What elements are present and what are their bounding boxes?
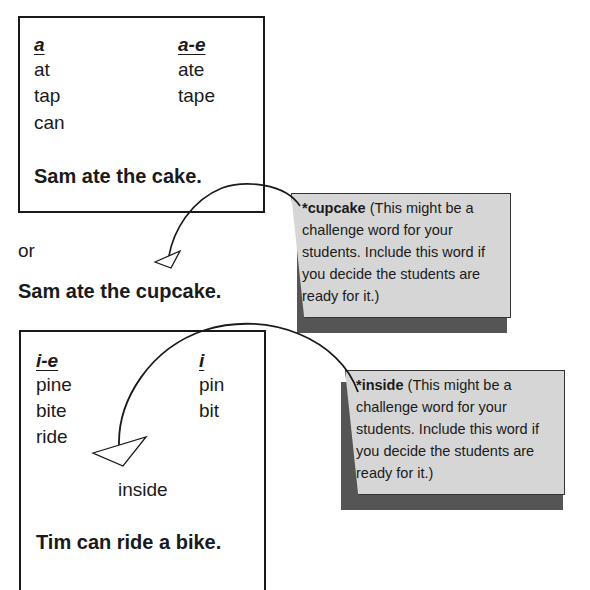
column-header-a-e: a-e [178,34,205,56]
column-header-i-e: i-e [36,350,58,372]
word-can: can [34,112,65,134]
sticky-note-cupcake: *cupcake (This might be a challenge word… [291,193,531,338]
or-label: or [18,240,35,262]
word-tap: tap [34,85,60,107]
word-ride: ride [36,426,68,448]
word-bit: bit [199,400,219,422]
word-at: at [34,59,50,81]
word-pin: pin [199,374,224,396]
word-pine: pine [36,374,72,396]
sentence-cupcake: Sam ate the cupcake. [18,280,221,302]
column-header-a: a [34,34,45,56]
column-header-i: i [199,350,204,372]
sticky-note-inside: *inside (This might be a challenge word … [345,370,585,515]
inserted-word-inside: inside [118,479,168,501]
note-word-inside: *inside [356,377,404,393]
sentence-bike: Tim can ride a bike. [36,531,221,553]
sentence-cake: Sam ate the cake. [34,165,202,187]
word-bite: bite [36,400,67,422]
word-tape: tape [178,85,215,107]
note-word-cupcake: *cupcake [302,200,366,216]
word-ate: ate [178,59,204,81]
